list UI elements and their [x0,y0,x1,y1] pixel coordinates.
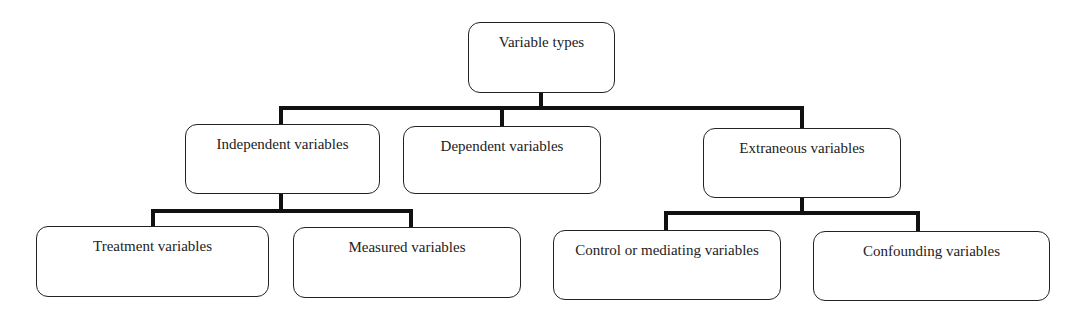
connector-level1-bar [279,106,804,110]
node-label: Variable types [499,34,584,50]
node-label: Treatment variables [93,238,212,254]
connector-treatment-drop [151,209,155,227]
connector-independent-bar [151,209,413,213]
node-dependent-variables: Dependent variables [403,126,601,194]
node-label: Control or mediating variables [575,242,759,258]
connector-confounding-drop [916,211,920,232]
connector-measured-drop [409,209,413,228]
node-extraneous-variables: Extraneous variables [703,128,901,198]
connector-extraneous-drop [800,106,804,129]
node-treatment-variables: Treatment variables [36,226,269,297]
connector-dependent-drop [500,106,504,127]
node-independent-variables: Independent variables [185,124,380,194]
node-measured-variables: Measured variables [293,227,521,298]
connector-control-drop [664,211,668,231]
node-variable-types: Variable types [468,22,615,93]
node-label: Measured variables [348,239,465,255]
variable-types-diagram: Variable types Independent variables Dep… [0,0,1082,317]
connector-extraneous-bar [664,211,920,215]
node-control-or-mediating-variables: Control or mediating variables [553,230,781,300]
node-label: Independent variables [216,136,348,152]
node-confounding-variables: Confounding variables [813,231,1050,301]
node-label: Confounding variables [863,243,1000,259]
connector-independent-drop [279,106,283,125]
node-label: Dependent variables [441,138,564,154]
node-label: Extraneous variables [739,140,864,156]
